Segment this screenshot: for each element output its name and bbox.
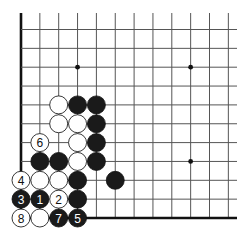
white-stone-disc — [31, 209, 49, 227]
black-stone — [87, 115, 105, 133]
move-number-label: 2 — [55, 193, 62, 207]
black-stone-disc — [69, 171, 87, 189]
black-stone-move-1: 1 — [31, 190, 49, 208]
white-stone-disc — [50, 96, 68, 114]
white-stone-disc — [50, 171, 68, 189]
black-stone-disc — [87, 134, 105, 152]
black-stone — [69, 190, 87, 208]
move-number-label: 7 — [55, 212, 62, 226]
black-stone-disc — [69, 190, 87, 208]
white-stone-disc — [69, 152, 87, 170]
white-stone-disc — [50, 115, 68, 133]
move-number-label: 8 — [18, 212, 25, 226]
black-stone-disc — [31, 152, 49, 170]
black-stone-disc — [87, 152, 105, 170]
black-stone-move-3: 3 — [12, 190, 30, 208]
white-stone — [69, 152, 87, 170]
white-stone-move-8: 8 — [12, 209, 30, 227]
black-stone-move-5: 5 — [69, 209, 87, 227]
white-stone — [31, 171, 49, 189]
white-stone-move-4: 4 — [12, 171, 30, 189]
white-stone-move-6: 6 — [31, 134, 49, 152]
black-stone — [106, 171, 124, 189]
black-stone-disc — [106, 171, 124, 189]
white-stone-disc — [31, 171, 49, 189]
move-number-label: 6 — [37, 136, 44, 150]
white-stone — [31, 209, 49, 227]
white-stone — [69, 115, 87, 133]
black-stone-disc — [87, 115, 105, 133]
black-stone-move-7: 7 — [50, 209, 68, 227]
star-point — [188, 65, 193, 70]
white-stone-move-2: 2 — [50, 190, 68, 208]
black-stone — [69, 96, 87, 114]
move-number-label: 1 — [37, 193, 44, 207]
white-stone — [69, 134, 87, 152]
white-stone-disc — [69, 134, 87, 152]
move-number-label: 5 — [74, 212, 81, 226]
black-stone — [31, 152, 49, 170]
white-stone-disc — [69, 115, 87, 133]
move-number-label: 4 — [18, 174, 25, 188]
black-stone — [69, 171, 87, 189]
go-board: 64312875 — [0, 0, 249, 238]
white-stone — [50, 115, 68, 133]
black-stone-disc — [69, 96, 87, 114]
black-stone-disc — [87, 96, 105, 114]
black-stone-disc — [50, 152, 68, 170]
black-stone — [87, 134, 105, 152]
black-stone — [87, 152, 105, 170]
black-stone — [50, 152, 68, 170]
move-number-label: 3 — [18, 193, 25, 207]
star-point — [75, 65, 80, 70]
black-stone — [87, 96, 105, 114]
white-stone — [50, 96, 68, 114]
star-point — [188, 159, 193, 164]
white-stone — [50, 171, 68, 189]
